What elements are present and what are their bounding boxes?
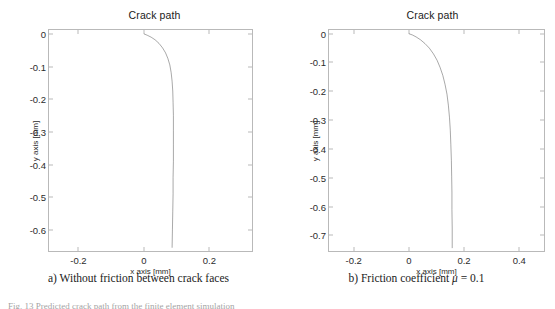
x-tick-b-3: 0.4 (513, 255, 526, 266)
y-tick-b-4: -0.4 (310, 143, 326, 154)
panel-a: Crack path y axis [mm] x axis [mm] 0 -0.… (0, 0, 277, 309)
y-axis-label-b: y axis [mm] (311, 120, 320, 160)
y-tick-b-1: -0.1 (310, 57, 326, 68)
plot-title-a: Crack path (0, 9, 277, 21)
y-tick-a-6: -0.6 (30, 224, 46, 235)
y-tick-b-2: -0.2 (310, 86, 326, 97)
y-tick-b-3: -0.3 (310, 115, 326, 126)
y-tick-b-6: -0.6 (310, 201, 326, 212)
y-tick-a-4: -0.4 (30, 159, 46, 170)
subcaption-b-suffix: = 0.1 (458, 272, 485, 284)
x-tick-a-2: 0.2 (203, 255, 216, 266)
y-tick-b-5: -0.5 (310, 172, 326, 183)
y-tick-b-7: -0.7 (310, 230, 326, 241)
x-tick-a-1: 0 (141, 255, 146, 266)
figure-container: Crack path y axis [mm] x axis [mm] 0 -0.… (0, 0, 555, 309)
subcaption-a: a) Without friction between crack faces (0, 272, 277, 284)
plot-axes-a: y axis [mm] x axis [mm] 0 -0.1 -0.2 -0.3… (48, 29, 253, 252)
y-tick-a-0: 0 (41, 28, 46, 39)
subcaption-b: b) Friction coefficient μ = 0.1 (278, 272, 555, 284)
x-tick-a-0: -0.2 (70, 255, 86, 266)
x-tick-b-1: 0 (406, 255, 411, 266)
y-tick-a-5: -0.5 (30, 192, 46, 203)
x-tick-b-2: 0.2 (457, 255, 470, 266)
plot-title-b: Crack path (278, 9, 555, 21)
y-tick-a-3: -0.3 (30, 126, 46, 137)
y-tick-a-2: -0.2 (30, 94, 46, 105)
subcaption-b-prefix: b) Friction coefficient (349, 272, 453, 284)
crack-path-curve-a (49, 30, 252, 251)
x-tick-b-0: -0.2 (346, 255, 362, 266)
y-tick-b-0: 0 (321, 28, 326, 39)
crack-path-curve-b (329, 30, 544, 251)
y-tick-a-1: -0.1 (30, 61, 46, 72)
plot-axes-b: y axis [mm] x axis [mm] 0 -0.1 -0.2 -0.3… (328, 29, 545, 252)
figure-caption: Fig. 13 Predicted crack path from the fi… (8, 301, 548, 309)
